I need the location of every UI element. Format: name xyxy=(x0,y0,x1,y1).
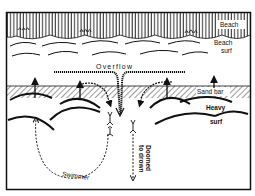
overflow-label: Overflow xyxy=(96,63,133,70)
sand-bar-label: Sand bar xyxy=(197,88,224,95)
doomed-label-line2: to drown xyxy=(138,145,145,172)
beach-area: Beach xyxy=(7,13,250,39)
doomed-label-line1: Doomed xyxy=(145,145,152,171)
beach-surf-label-line1: Beach xyxy=(214,39,233,46)
heavy-surf-label-line1: Heavy xyxy=(206,104,226,112)
rip-current-diagram: Beach Beach surf Sand bar Heavy surf xyxy=(0,0,255,196)
heavy-surf-label-line2: surf xyxy=(210,118,223,125)
beach-surf-label-line2: surf xyxy=(221,47,232,54)
beach-label: Beach xyxy=(220,21,239,28)
